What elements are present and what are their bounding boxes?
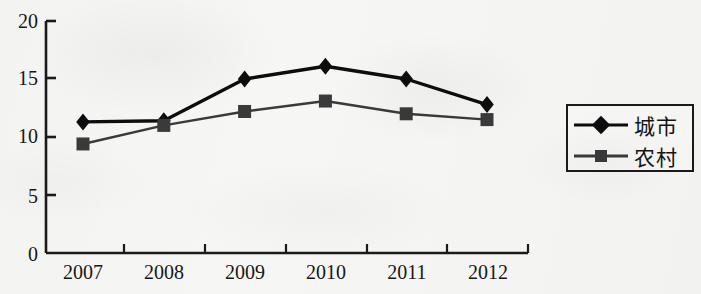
data-point-marker xyxy=(400,107,413,120)
data-point-marker xyxy=(319,58,333,75)
data-point-marker xyxy=(157,119,170,132)
diamond-marker-icon xyxy=(574,116,628,134)
data-point-marker xyxy=(319,95,332,108)
legend-label-rural: 农村 xyxy=(634,141,677,171)
series-line xyxy=(83,66,487,122)
legend-entry-urban: 城市 xyxy=(574,110,677,140)
legend-label-urban: 城市 xyxy=(634,110,677,140)
data-series-layer xyxy=(76,58,494,151)
data-point-marker xyxy=(76,113,90,130)
data-point-marker xyxy=(238,105,251,118)
series-urban xyxy=(76,58,494,131)
data-point-marker xyxy=(481,113,494,126)
line-chart: 20 15 10 5 0 2007 2008 2009 2010 2011 20… xyxy=(0,0,701,294)
data-point-marker xyxy=(480,96,494,113)
y-axis-ticks xyxy=(46,21,56,195)
square-marker-icon xyxy=(574,147,628,165)
legend: 城市 农村 xyxy=(566,104,694,172)
data-point-marker xyxy=(399,71,413,88)
x-axis-ticks xyxy=(124,244,528,253)
data-point-marker xyxy=(77,137,90,150)
data-point-marker xyxy=(238,71,252,88)
legend-entry-rural: 农村 xyxy=(574,141,677,171)
